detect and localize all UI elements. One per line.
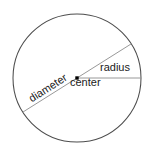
circle-diagram: radius center diameter <box>0 0 150 155</box>
radius-label: radius <box>100 62 130 73</box>
center-label: center <box>70 77 101 88</box>
